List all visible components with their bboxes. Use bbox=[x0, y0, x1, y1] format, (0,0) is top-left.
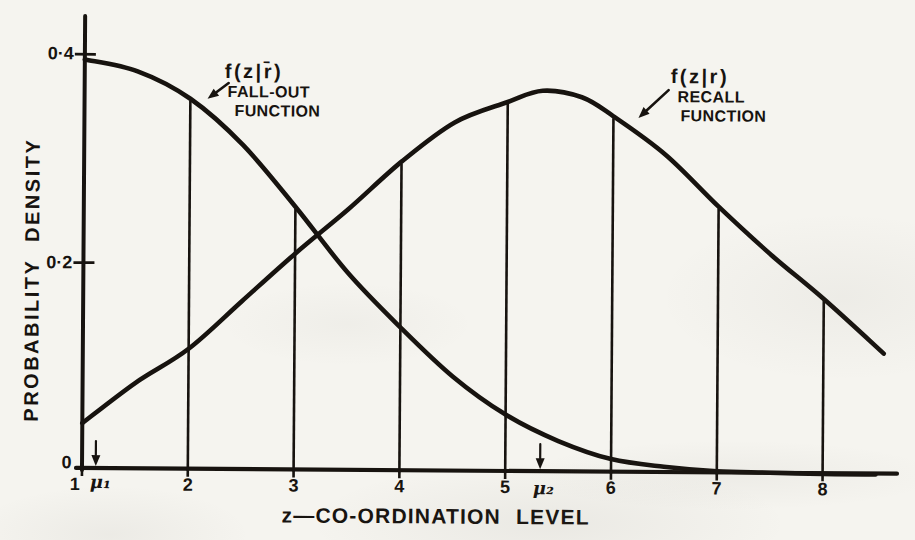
x-tick-label-4: 4 bbox=[394, 476, 404, 497]
ordinate-line-z3 bbox=[294, 209, 296, 472]
y-tick-label-0.2: 0·2 bbox=[46, 252, 72, 273]
ordinate-line-z2 bbox=[188, 101, 191, 471]
recall-name-line2: FUNCTION bbox=[680, 108, 766, 125]
fallout-series-label: f(z|r̄) FALL-OUT FUNCTION bbox=[224, 61, 320, 120]
y-axis bbox=[82, 16, 85, 470]
x-axis-title: z—CO-ORDINATION LEVEL bbox=[282, 503, 590, 529]
ordinate-line-z8 bbox=[823, 301, 824, 475]
x-tick-label-8: 8 bbox=[817, 479, 827, 500]
fallout-formula-label: f(z|r̄) bbox=[225, 61, 321, 82]
y-tick-label-0.4: 0·4 bbox=[48, 43, 74, 64]
x-tick-label-3: 3 bbox=[288, 475, 298, 496]
recall-pointer-arrow-shaft bbox=[647, 90, 669, 111]
mu2-arrow-head bbox=[536, 458, 545, 469]
scanned-chart-figure: PROBABILITY DENSITY z—CO-ORDINATION LEVE… bbox=[0, 0, 915, 540]
recall-formula-label: f(z|r) bbox=[671, 66, 767, 87]
x-tick-label-1: 1 bbox=[70, 474, 80, 495]
fallout-name-line1: FALL-OUT bbox=[228, 84, 321, 101]
mu1-arrow-head bbox=[91, 455, 100, 466]
x-tick-label-6: 6 bbox=[606, 478, 616, 499]
y-tick-label-0: 0 bbox=[62, 452, 72, 473]
recall-curve bbox=[82, 87, 885, 428]
fallout-name-line2: FUNCTION bbox=[234, 103, 320, 120]
ordinate-line-z6 bbox=[611, 118, 613, 473]
x-tick-label-7: 7 bbox=[712, 478, 722, 499]
mu2-label: μ₂ bbox=[533, 477, 554, 498]
recall-series-label: f(z|r) RECALL FUNCTION bbox=[670, 66, 766, 125]
ordinate-line-z4 bbox=[399, 164, 401, 473]
ordinate-line-z7 bbox=[717, 209, 719, 475]
x-tick-label-2: 2 bbox=[183, 475, 193, 496]
x-tick-label-5: 5 bbox=[500, 477, 510, 498]
chart-canvas bbox=[0, 0, 915, 540]
recall-name-line1: RECALL bbox=[678, 89, 767, 106]
mu1-label: μ₁ bbox=[90, 471, 111, 492]
y-axis-title: PROBABILITY DENSITY bbox=[20, 138, 45, 422]
